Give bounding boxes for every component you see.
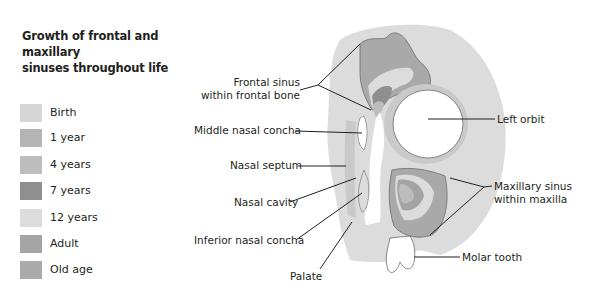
label-frontal-sinus-line2: within frontal bone: [196, 89, 300, 102]
label-nasal-cavity: Nasal cavity: [234, 196, 298, 209]
label-left-orbit: Left orbit: [497, 113, 545, 126]
label-frontal-sinus: Frontal sinus within frontal bone: [196, 76, 300, 102]
label-inferior-nasal-concha: Inferior nasal concha: [194, 234, 304, 247]
left-orbit: [393, 90, 463, 158]
label-maxillary-sinus: Maxillary sinus within maxilla: [494, 180, 572, 206]
label-nasal-septum: Nasal septum: [230, 159, 302, 172]
molar-tooth: [386, 236, 414, 272]
label-frontal-sinus-line1: Frontal sinus: [196, 76, 300, 89]
label-maxillary-sinus-line2: within maxilla: [494, 193, 572, 206]
label-middle-nasal-concha: Middle nasal concha: [194, 124, 301, 137]
label-molar-tooth: Molar tooth: [462, 251, 522, 264]
label-maxillary-sinus-line1: Maxillary sinus: [494, 180, 572, 193]
label-palate: Palate: [290, 270, 322, 283]
